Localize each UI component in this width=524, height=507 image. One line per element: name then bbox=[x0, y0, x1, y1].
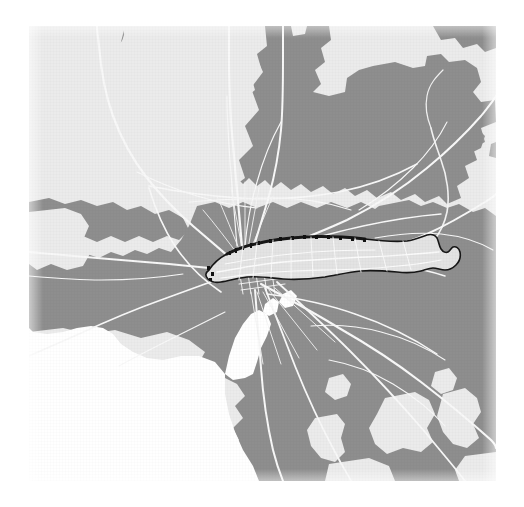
boundary-tick bbox=[229, 251, 231, 255]
boundary-tick bbox=[315, 235, 318, 239]
boundary-tick bbox=[327, 235, 330, 239]
boundary-tick bbox=[351, 237, 354, 241]
map-canvas[interactable] bbox=[29, 26, 496, 481]
boundary-tick bbox=[339, 236, 342, 240]
boundary-tick bbox=[258, 241, 260, 245]
boundary-tick bbox=[303, 235, 306, 239]
boundary-tick bbox=[269, 239, 272, 243]
boundary-tick bbox=[250, 243, 252, 248]
rural-block-left-mid bbox=[29, 208, 91, 270]
boundary-tick bbox=[363, 238, 366, 242]
boundary-tick bbox=[279, 237, 282, 241]
boundary-tick bbox=[209, 278, 212, 281]
map-viewport[interactable] bbox=[29, 26, 496, 481]
boundary-tick bbox=[291, 236, 294, 240]
boundary-tick bbox=[211, 272, 214, 276]
boundary-tick bbox=[207, 266, 210, 270]
boundary-tick bbox=[235, 248, 237, 253]
rural-wedge-west bbox=[29, 26, 125, 92]
map-figure-page bbox=[0, 0, 524, 507]
